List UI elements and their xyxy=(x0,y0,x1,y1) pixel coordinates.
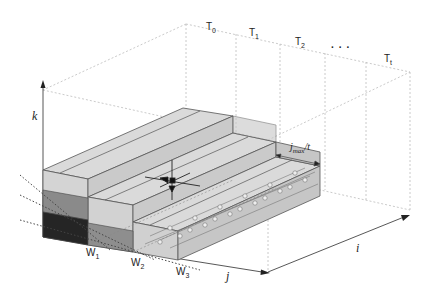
jmax-label: jmax/t xyxy=(290,142,310,155)
w2-label: W2 xyxy=(131,258,144,270)
i-axis xyxy=(268,215,410,272)
time-label-t0: T0 xyxy=(206,22,216,34)
time-label-ellipsis: ... xyxy=(331,40,354,50)
i-axis-label: i xyxy=(356,242,359,254)
time-label-t1: T1 xyxy=(249,28,259,40)
w1-label: W1 xyxy=(86,248,99,260)
time-label-t2: T2 xyxy=(295,37,305,49)
time-label-tt: Tt xyxy=(384,54,392,66)
w3-label: W3 xyxy=(176,267,189,279)
k-axis-label: k xyxy=(32,110,37,122)
j-axis-label: j xyxy=(226,270,229,282)
staircase-diagram xyxy=(0,0,426,296)
